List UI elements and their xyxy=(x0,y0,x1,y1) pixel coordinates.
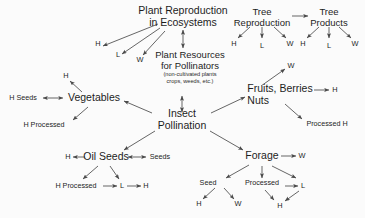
letter-treerepro-h: H xyxy=(231,40,236,48)
letter-forage-h-bottom: H xyxy=(277,202,282,210)
letter-vegetables-h: H xyxy=(63,72,68,80)
plant-resources-line2: for Pollinators xyxy=(155,61,225,72)
edge-insect-vegetables xyxy=(124,101,152,113)
edge-treerepro-w xyxy=(274,27,286,38)
letter-treeproducts-l: L xyxy=(327,42,331,50)
letter-treeproducts-w: W xyxy=(352,40,359,48)
plant-reproduction-line2: in Ecosystems xyxy=(138,17,227,29)
label-forage-processed: Processed xyxy=(245,179,279,187)
edge-vegetables-processed xyxy=(73,107,88,120)
fruits-line1: Fruits, Berries xyxy=(247,83,312,95)
edge-foragel-h xyxy=(285,191,299,201)
tree-reproduction-line2: Reproduction xyxy=(234,18,291,29)
letter-treerepro-w: W xyxy=(287,40,294,48)
edge-seed-h xyxy=(203,188,215,199)
letter-seed-w: W xyxy=(235,200,242,208)
letter-forage-l: L xyxy=(301,182,305,190)
label-oilseeds-seeds: Seeds xyxy=(150,153,170,161)
node-forage: Forage xyxy=(245,150,278,161)
edge-oilseeds-processed xyxy=(83,166,98,179)
plant-reproduction-line1: Plant Reproduction xyxy=(138,5,227,17)
label-oil-processed: H Processed xyxy=(55,182,96,190)
letter-forage-w: W xyxy=(299,152,306,160)
insect-pollination-line1: Insect xyxy=(158,108,206,120)
letter-oilseeds-h-left: H xyxy=(65,153,70,161)
letter-plantrepro-h: H xyxy=(95,40,100,48)
node-oil-seeds: Oil Seeds xyxy=(83,151,129,162)
edge-forageprocessed-h xyxy=(265,190,274,200)
node-tree-reproduction: Tree Reproduction xyxy=(234,7,291,28)
edge-forage-l xyxy=(272,166,296,178)
node-plant-resources: Plant Resources for Pollinators (non-cul… xyxy=(155,50,225,84)
node-insect-pollination: Insect Pollination xyxy=(158,108,206,132)
edge-seed-w xyxy=(224,188,234,199)
label-forage-seed: Seed xyxy=(200,179,217,187)
edge-forage-seed xyxy=(226,165,249,178)
edge-oilseeds-l xyxy=(110,166,119,179)
letter-treeproducts-h: H xyxy=(300,40,305,48)
node-fruits-berries-nuts: Fruits, Berries Nuts xyxy=(247,83,312,107)
plant-resources-note2: crops, weeds, etc.) xyxy=(155,78,225,84)
fruits-line2: Nuts xyxy=(247,95,312,107)
node-vegetables: Vegetables xyxy=(68,92,120,103)
letter-treerepro-l: L xyxy=(260,42,264,50)
edge-treeproducts-h xyxy=(307,27,319,38)
letter-fruits-h: H xyxy=(332,86,337,94)
letter-seed-h: H xyxy=(196,200,201,208)
letter-oil-h-right: H xyxy=(143,182,148,190)
edge-treeproducts-w xyxy=(339,27,351,38)
letter-plantrepro-l: L xyxy=(116,51,120,59)
letter-oil-l: L xyxy=(120,182,124,190)
letter-fruits-w: W xyxy=(288,62,295,70)
tree-products-line2: Products xyxy=(310,18,348,29)
pollination-flow-diagram: Plant Reproduction in Ecosystems Plant R… xyxy=(0,0,365,218)
insect-pollination-line2: Pollination xyxy=(158,120,206,132)
label-vegetable-seeds: H Seeds xyxy=(9,94,37,102)
label-fruits-processed: Processed H xyxy=(306,120,347,128)
edge-insect-oilseeds xyxy=(124,131,155,150)
edge-insect-forage xyxy=(210,131,243,150)
edge-treerepro-h xyxy=(238,27,250,38)
node-tree-products: Tree Products xyxy=(310,7,348,28)
node-plant-reproduction: Plant Reproduction in Ecosystems xyxy=(138,5,227,29)
edge-insect-fruits xyxy=(211,97,245,113)
label-vegetable-processed: H Processed xyxy=(23,121,64,129)
letter-plantrepro-w: W xyxy=(137,56,144,64)
plant-resources-note1: (non-cultivated plants xyxy=(155,71,225,77)
